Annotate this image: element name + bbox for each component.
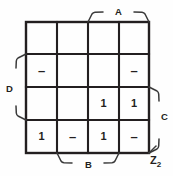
cell-r4c2[interactable]: – [57,120,88,153]
variable-label-b: B [85,160,92,170]
bracket-d-bottom [16,106,26,120]
variable-label-d: D [6,84,13,94]
bracket-a-right [134,12,149,22]
output-label-subscript: 2 [157,160,161,169]
karnaugh-map-figure: – – 1 1 1 – 1 – A B C D Z2 [0,0,173,176]
cell-r4c1[interactable]: 1 [26,120,57,153]
cell-r4c4[interactable]: – [119,120,149,153]
cell-r3c1[interactable] [26,87,57,120]
cell-r1c1[interactable] [26,22,57,55]
cell-r2c4[interactable]: – [119,54,149,87]
output-label-z2: Z2 [150,155,161,169]
cell-r2c3[interactable] [88,54,119,87]
bracket-b-right [104,153,119,163]
variable-label-c: C [161,112,168,122]
cell-r2c2[interactable] [57,54,88,87]
variable-label-a: A [115,7,122,17]
bracket-a-left [88,12,103,22]
cell-r1c3[interactable] [88,22,119,55]
cell-r1c4[interactable] [119,22,149,55]
cell-r3c4[interactable]: 1 [119,87,149,120]
bracket-b-left [57,153,72,163]
cell-r3c2[interactable] [57,87,88,120]
bracket-c-top [149,87,159,101]
cell-r2c1[interactable]: – [26,54,57,87]
bracket-d-top [16,54,26,68]
cell-r1c2[interactable] [57,22,88,55]
cell-r3c3[interactable]: 1 [88,87,119,120]
cell-r4c3[interactable]: 1 [88,120,119,153]
output-label-letter: Z [150,154,157,166]
